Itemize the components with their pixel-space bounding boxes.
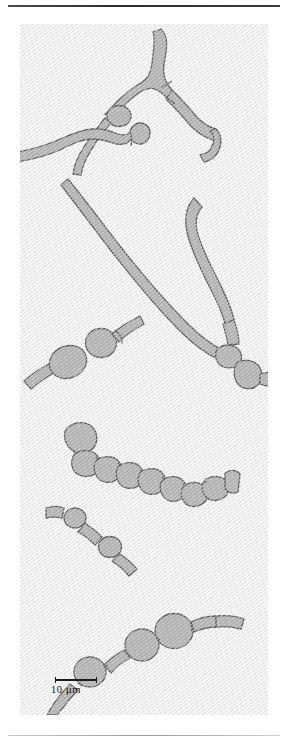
two-cell-chain-mid-left	[24, 316, 144, 389]
micrograph-panel: .f{fill:#b3b3b3;stroke:#5f5f5f;stroke-wi…	[20, 24, 268, 715]
short-chain-lower-left	[46, 507, 137, 577]
bottom-rule	[8, 735, 280, 736]
curved-filament-right	[186, 198, 239, 345]
branched-filament-top-right	[73, 29, 221, 175]
top-rule	[8, 5, 280, 7]
filament-junction-segments	[216, 345, 268, 389]
scale-bar-line	[55, 679, 97, 681]
beaded-chain-middle	[65, 423, 240, 507]
scale-bar-label: 10 µm	[51, 684, 97, 695]
specimen-drawing: .f{fill:#b3b3b3;stroke:#5f5f5f;stroke-wi…	[20, 24, 268, 715]
scale-bar: 10 µm	[35, 679, 97, 695]
large-cell-chain-bottom	[47, 614, 244, 716]
